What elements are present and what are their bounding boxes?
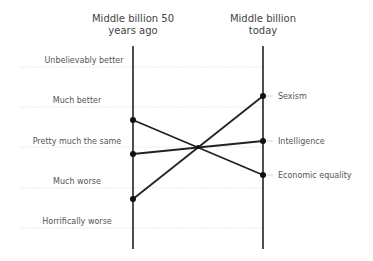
- left-header-line2: years ago: [108, 25, 157, 36]
- gridlines: [20, 67, 263, 228]
- series-label-intelligence: Intelligence: [278, 137, 325, 146]
- level-label: Pretty much the same: [33, 137, 122, 146]
- series-label-sexism: Sexism: [278, 92, 307, 101]
- level-label: Much better: [53, 96, 102, 105]
- level-label: Much worse: [53, 177, 101, 186]
- right-header-line1: Middle billion: [230, 13, 296, 24]
- left-header-line1: Middle billion 50: [92, 13, 174, 24]
- level-label: Unbelievably better: [45, 56, 125, 65]
- slope-chart: Unbelievably better Much better Pretty m…: [0, 0, 373, 261]
- series-label-economic-equality: Economic equality: [278, 171, 352, 180]
- right-header-line2: today: [249, 25, 278, 36]
- level-label: Horrifically worse: [42, 217, 112, 226]
